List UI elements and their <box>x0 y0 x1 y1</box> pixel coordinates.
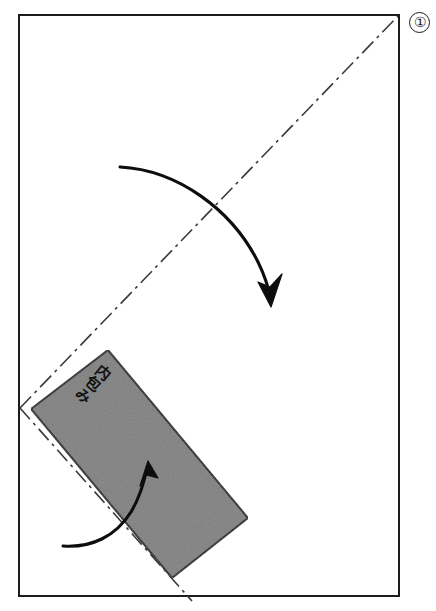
step-number-label: ① <box>414 16 427 30</box>
fold-instruction-figure <box>0 0 436 611</box>
step-number-badge: ① <box>409 12 433 36</box>
